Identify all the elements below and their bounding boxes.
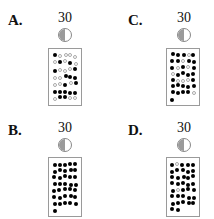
filled-particle	[182, 175, 186, 179]
particle-box	[48, 48, 82, 106]
filled-particle	[192, 66, 196, 70]
filled-particle	[63, 90, 67, 94]
filled-particle	[53, 90, 57, 94]
open-particle	[176, 66, 180, 70]
filled-particle	[52, 189, 56, 193]
option-label: B.	[8, 122, 22, 139]
filled-particle	[187, 201, 191, 205]
filled-particle	[176, 53, 180, 57]
filled-particle	[58, 95, 62, 99]
filled-particle	[170, 59, 174, 63]
filled-particle	[192, 60, 196, 64]
filled-particle	[170, 66, 174, 70]
filled-particle	[64, 74, 68, 78]
filled-particle	[171, 90, 175, 94]
filled-particle	[186, 73, 190, 77]
filled-particle	[68, 162, 72, 166]
filled-particle	[170, 98, 174, 102]
filled-particle	[180, 163, 184, 167]
filled-particle	[191, 78, 195, 82]
filled-particle	[181, 84, 185, 88]
filled-particle	[176, 194, 180, 198]
filled-particle	[181, 71, 185, 75]
filled-particle	[69, 168, 73, 172]
open-particle	[171, 72, 175, 76]
filled-particle	[63, 169, 67, 173]
filled-particle	[186, 85, 190, 89]
filled-particle	[176, 59, 180, 63]
open-particle	[175, 162, 179, 166]
filled-particle	[187, 59, 191, 63]
day-number: 30	[169, 120, 199, 136]
filled-particle	[191, 174, 195, 178]
open-particle	[74, 62, 78, 66]
filled-particle	[53, 182, 57, 186]
open-particle	[58, 82, 62, 86]
filled-particle	[181, 194, 185, 198]
filled-particle	[53, 202, 57, 206]
filled-particle	[170, 194, 174, 198]
open-particle	[53, 97, 57, 101]
filled-particle	[68, 201, 72, 205]
filled-particle	[181, 200, 185, 204]
filled-particle	[63, 163, 67, 167]
open-particle	[68, 96, 72, 100]
first-quarter-moon-icon	[177, 138, 191, 152]
filled-particle	[170, 175, 174, 179]
filled-particle	[53, 69, 57, 73]
filled-particle	[74, 183, 78, 187]
filled-particle	[63, 182, 67, 186]
filled-particle	[186, 90, 190, 94]
open-particle	[187, 53, 191, 57]
filled-particle	[170, 181, 174, 185]
open-particle	[73, 55, 77, 59]
filled-particle	[182, 53, 186, 57]
filled-particle	[186, 170, 190, 174]
open-particle	[186, 65, 190, 69]
open-particle	[63, 59, 67, 63]
filled-particle	[171, 78, 175, 82]
filled-particle	[171, 84, 175, 88]
open-particle	[68, 53, 72, 57]
filled-particle	[191, 169, 195, 173]
filled-particle	[186, 183, 190, 187]
filled-particle	[63, 83, 67, 87]
open-particle	[58, 54, 62, 58]
filled-particle	[58, 60, 62, 64]
filled-particle	[73, 175, 77, 179]
particle-box	[48, 157, 82, 217]
open-particle	[64, 53, 68, 57]
filled-particle	[73, 91, 77, 95]
filled-particle	[68, 91, 72, 95]
day-number: 30	[169, 10, 199, 26]
filled-particle	[170, 170, 174, 174]
filled-particle	[58, 168, 62, 172]
filled-particle	[191, 201, 195, 205]
filled-particle	[176, 176, 180, 180]
open-particle	[176, 188, 180, 192]
open-particle	[53, 60, 57, 64]
filled-particle	[192, 196, 196, 200]
open-particle	[53, 83, 57, 87]
day-number: 30	[50, 10, 80, 26]
open-particle	[69, 81, 73, 85]
filled-particle	[192, 188, 196, 192]
open-particle	[53, 76, 57, 80]
filled-particle	[73, 168, 77, 172]
filled-particle	[73, 162, 77, 166]
filled-particle	[52, 175, 56, 179]
option-label: C.	[128, 12, 143, 29]
filled-particle	[171, 189, 175, 193]
filled-particle	[181, 188, 185, 192]
open-particle	[176, 79, 180, 83]
filled-particle	[176, 73, 180, 77]
open-particle	[63, 69, 67, 73]
filled-particle	[176, 201, 180, 205]
open-particle	[192, 91, 196, 95]
filled-particle	[63, 201, 67, 205]
filled-particle	[73, 67, 77, 71]
filled-particle	[73, 188, 77, 192]
filled-particle	[187, 196, 191, 200]
open-particle	[58, 68, 62, 72]
first-quarter-moon-icon	[58, 28, 72, 42]
